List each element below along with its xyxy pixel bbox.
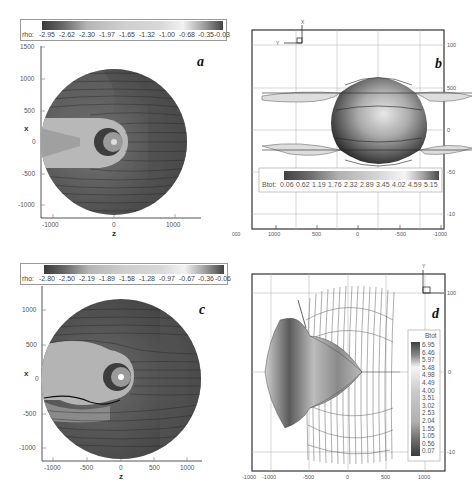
- y-tick: 0: [35, 375, 39, 382]
- y-axis-title: x: [24, 124, 28, 133]
- y-tick: 100: [447, 42, 456, 48]
- colorbar-tick: 0.07: [422, 447, 442, 455]
- x-tick: 0: [356, 231, 359, 237]
- y-tick: 500: [447, 85, 456, 91]
- y-tick: 1000: [20, 75, 34, 82]
- panel-label-c: c: [199, 302, 205, 318]
- colorbar-ticks-d: 6.95 6.46 5.97 5.48 4.98 4.49 4.00 3.51 …: [422, 341, 442, 455]
- colorbar-variable-label: Btot:: [262, 181, 276, 188]
- y-tick: 100: [447, 290, 456, 296]
- colorbar-tick: 5.48: [422, 364, 442, 372]
- y-tick: 1500: [20, 43, 34, 50]
- x-tick: 500: [149, 464, 160, 471]
- colorbar-tick: 1.55: [422, 425, 442, 433]
- y-tick: -50: [447, 169, 455, 175]
- y-tick: -10: [447, 211, 455, 217]
- x-tick: -1000: [44, 464, 61, 471]
- y-tick: 0: [447, 127, 450, 133]
- x-tick: 0: [119, 464, 123, 471]
- colorbar-variable-label: Btot: [425, 332, 437, 339]
- y-tick: -1000: [19, 444, 36, 451]
- colorbar-tick: 1.05: [422, 432, 442, 440]
- colorbar-tick: 1.76: [328, 181, 342, 188]
- panel-label-d: d: [432, 306, 439, 322]
- x-axis-title: z: [112, 229, 116, 238]
- x-tick: -1000: [433, 231, 447, 237]
- y-tick: -10: [447, 449, 455, 455]
- panel-b: X Y Btot: 0.06 0.62 1.19 1.76 2.32 2.89 …: [240, 0, 476, 245]
- plot-c: [0, 250, 240, 496]
- x-tick: 0: [346, 474, 349, 480]
- x-tick: 1000: [166, 221, 180, 228]
- x-axis-title: z: [119, 472, 123, 481]
- colorbar-tick: 2.32: [344, 181, 358, 188]
- x-tick: 1000: [418, 474, 430, 480]
- panel-d: Y Btot 6.95 6.46 5.97 5.48 4.98 4.49 4.0…: [240, 250, 476, 496]
- colorbar-tick: 4.59: [408, 181, 422, 188]
- colorbar-tick: 1.19: [312, 181, 326, 188]
- colorbar-tick: 3.45: [376, 181, 390, 188]
- x-tick: 0: [112, 221, 116, 228]
- panel-a: rho: -2.95 -2.62 -2.30 -1.97 -1.65 -1.32…: [0, 0, 240, 245]
- y-tick: 500: [26, 341, 37, 348]
- plot-b: [240, 0, 476, 245]
- y-tick: 1000: [22, 306, 36, 313]
- colorbar-tick: 3.51: [422, 394, 442, 402]
- colorbar-tick: 2.89: [360, 181, 374, 188]
- y-tick: 500: [24, 107, 35, 114]
- colorbar-tick: 4.98: [422, 371, 442, 379]
- x-tick: -1000: [242, 474, 256, 480]
- colorbar-tick: 6.46: [422, 349, 442, 357]
- colorbar-tick: 2.53: [422, 409, 442, 417]
- colorbar-tick: 5.97: [422, 356, 442, 364]
- panel-c: rho: -2.80 -2.50 -2.19 -1.89 -1.58 -1.28…: [0, 250, 240, 496]
- x-tick: -500: [303, 474, 314, 480]
- x-tick: 500: [381, 474, 390, 480]
- panel-label-a: a: [197, 54, 204, 70]
- y-tick: 0: [32, 138, 36, 145]
- x-tick: 1000: [268, 231, 280, 237]
- colorbar-tick: 4.02: [392, 181, 406, 188]
- colorbar-tick: 6.95: [422, 341, 442, 349]
- x-tick: -500: [80, 464, 93, 471]
- y-tick: -500: [22, 170, 35, 177]
- y-tick: 0: [448, 369, 451, 375]
- colorbar-tick: 5.15: [424, 181, 438, 188]
- triad-x-label: X: [301, 19, 304, 25]
- x-tick: 1000: [180, 464, 194, 471]
- y-tick: -500: [23, 410, 36, 417]
- x-tick: -500: [395, 231, 406, 237]
- colorbar-tick: 2.04: [422, 417, 442, 425]
- x-tick-cut: 000: [232, 231, 240, 237]
- y-axis-title: x: [24, 369, 28, 378]
- y-tick: -1000: [18, 201, 35, 208]
- panel-label-b: b: [435, 56, 442, 72]
- x-tick: 500: [312, 231, 321, 237]
- colorbar-tick: 0.06: [280, 181, 294, 188]
- colorbar-tick: 4.00: [422, 387, 442, 395]
- triad-y-label: Y: [276, 40, 279, 46]
- x-tick: -1000: [262, 474, 276, 480]
- plot-a: [0, 0, 240, 245]
- colorbar-tick: 0.62: [296, 181, 310, 188]
- triad-y-label: Y: [422, 263, 425, 269]
- colorbar-tick: 4.49: [422, 379, 442, 387]
- x-tick: -1000: [42, 221, 59, 228]
- colorbar-tick: 0.56: [422, 440, 442, 448]
- colorbar-tick: 3.02: [422, 402, 442, 410]
